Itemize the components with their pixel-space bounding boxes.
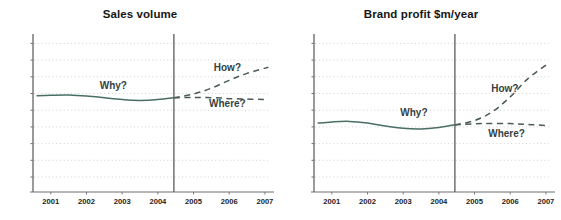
annotation-why: Why? (400, 107, 427, 118)
figure-canvas: Sales volume 200120022003200420052006200… (0, 0, 561, 220)
annotation-why: Why? (100, 80, 127, 91)
series-line-history (37, 95, 174, 100)
x-axis-label: 2003 (395, 197, 412, 206)
x-axis-label: 2004 (149, 197, 167, 206)
gridlines (312, 43, 550, 177)
x-axis-ticks: 2001200220032004200520062007 (323, 192, 554, 206)
annotation-where: Where? (209, 98, 246, 109)
axes (30, 34, 274, 192)
chart-panel-brand-profit: Brand profit $m/year 2001200220032004200… (281, 0, 561, 220)
brand-profit-plot: 2001200220032004200520062007Why?How?Wher… (281, 0, 561, 220)
series-line-history (318, 121, 455, 129)
x-axis-label: 2006 (502, 197, 519, 206)
x-axis-ticks: 2001200220032004200520062007 (42, 192, 273, 206)
x-axis-label: 2002 (78, 197, 95, 206)
axes (311, 34, 555, 192)
x-axis-label: 2005 (185, 197, 203, 206)
annotation-how: How? (491, 83, 518, 94)
series-line-where (455, 123, 550, 125)
x-axis-label: 2002 (359, 197, 376, 206)
x-axis-label: 2003 (114, 197, 131, 206)
series-line-how (455, 64, 548, 125)
annotation-where: Where? (488, 128, 525, 139)
x-axis-label: 2004 (430, 197, 448, 206)
annotation-how: How? (214, 62, 241, 73)
x-axis-label: 2001 (323, 197, 341, 206)
x-axis-label: 2001 (42, 197, 60, 206)
sales-volume-plot: 2001200220032004200520062007Why?How?Wher… (0, 0, 280, 220)
x-axis-label: 2006 (221, 197, 238, 206)
x-axis-label: 2007 (256, 197, 273, 206)
x-axis-label: 2005 (466, 197, 484, 206)
chart-panel-sales-volume: Sales volume 200120022003200420052006200… (0, 0, 280, 220)
x-axis-label: 2007 (537, 197, 554, 206)
